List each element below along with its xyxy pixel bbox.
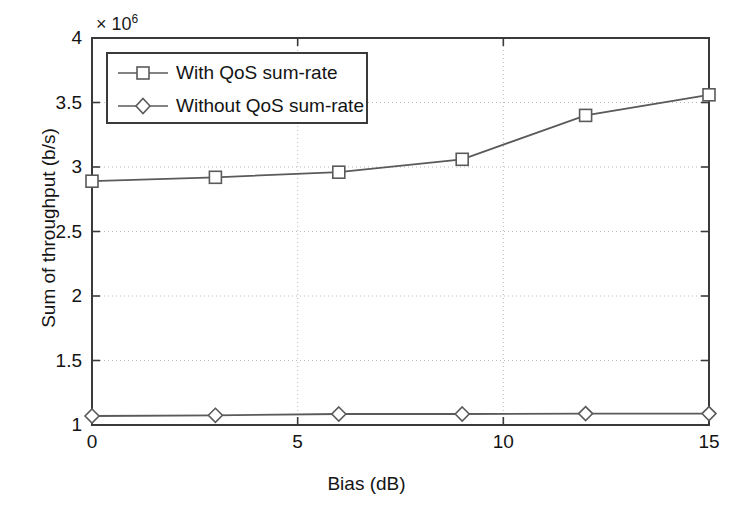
legend-marker-diamond-icon: [116, 95, 170, 117]
chart-legend: With QoS sum-rate Without QoS sum-rate: [106, 52, 368, 124]
chart-figure: × 106 11.522.533.54 051015 Sum of throug…: [0, 0, 733, 512]
x-axis-tick-label: 0: [87, 431, 98, 453]
y-axis-title: Sum of throughput (b/s): [38, 128, 60, 328]
x-axis-title: Bias (dB): [0, 473, 733, 495]
legend-marker-square-icon: [116, 62, 170, 84]
data-point-marker-square: [209, 171, 221, 183]
data-point-marker-diamond: [208, 408, 222, 422]
series-line-1: [92, 414, 709, 416]
x-axis-tick-label: 15: [698, 431, 719, 453]
legend-label-with-qos: With QoS sum-rate: [176, 62, 338, 84]
data-point-marker-square: [86, 175, 98, 187]
y-axis-title-wrapper: Sum of throughput (b/s): [38, 28, 62, 428]
data-point-marker-diamond: [332, 407, 346, 421]
legend-label-without-qos: Without QoS sum-rate: [176, 95, 364, 117]
data-point-marker-diamond: [702, 407, 716, 421]
data-point-marker-square: [333, 166, 345, 178]
data-point-marker-square: [456, 153, 468, 165]
x-axis-tick-label: 5: [292, 431, 303, 453]
legend-item-with-qos: With QoS sum-rate: [108, 56, 366, 90]
data-point-marker-square: [703, 89, 715, 101]
data-point-marker-diamond: [455, 407, 469, 421]
data-point-marker-diamond: [579, 407, 593, 421]
data-point-marker-square: [580, 109, 592, 121]
x-axis-tick-label: 10: [493, 431, 514, 453]
data-point-marker-diamond: [85, 409, 99, 423]
legend-item-without-qos: Without QoS sum-rate: [108, 89, 366, 123]
